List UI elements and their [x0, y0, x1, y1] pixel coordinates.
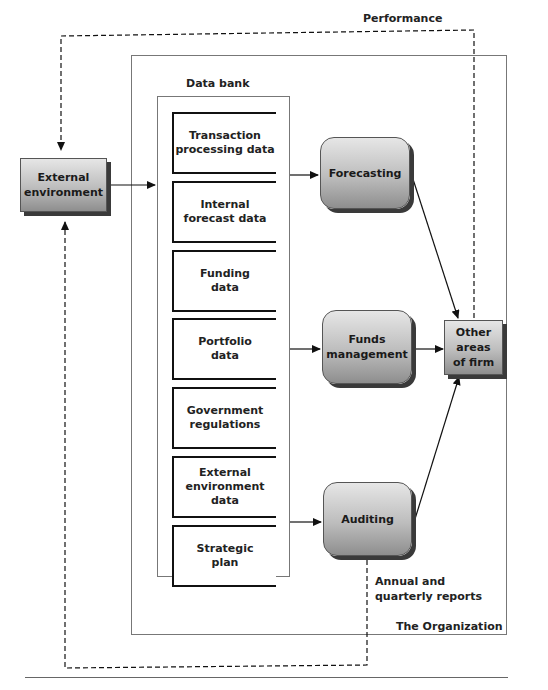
funds-management-box: Funds management — [322, 310, 412, 384]
auditing-box: Auditing — [323, 482, 412, 556]
data-item-government-regulations: Governmentregulations — [172, 387, 276, 449]
other-areas-line1: Other — [453, 325, 494, 340]
data-item-funding: Fundingdata — [172, 250, 276, 312]
data-item-transaction-processing: Transactionprocessing data — [172, 112, 276, 174]
data-bank-label: Data bank — [186, 77, 250, 90]
funds-management-line2: management — [326, 347, 408, 362]
bottom-rule — [25, 677, 508, 678]
forecasting-box: Forecasting — [320, 137, 410, 209]
annual-reports-line2: quarterly reports — [375, 589, 482, 604]
organization-label: The Organization — [396, 620, 503, 633]
other-areas-line2: areas — [453, 340, 494, 355]
auditing-label: Auditing — [341, 512, 394, 527]
forecasting-label: Forecasting — [329, 166, 402, 181]
funds-management-line1: Funds — [326, 332, 408, 347]
data-item-external-environment: Externalenvironmentdata — [172, 456, 276, 518]
other-areas-box: Other areas of firm — [444, 320, 503, 375]
other-areas-line3: of firm — [453, 355, 494, 370]
data-item-portfolio: Portfoliodata — [172, 318, 276, 380]
data-item-internal-forecast: Internalforecast data — [172, 181, 276, 243]
annual-reports-label: Annual and quarterly reports — [375, 574, 482, 604]
external-environment-line1: External — [24, 170, 103, 185]
external-environment-box: External environment — [20, 158, 107, 212]
performance-label: Performance — [363, 12, 442, 25]
external-environment-line2: environment — [24, 185, 103, 200]
data-item-strategic-plan: Strategicplan — [172, 525, 276, 587]
annual-reports-line1: Annual and — [375, 574, 482, 589]
